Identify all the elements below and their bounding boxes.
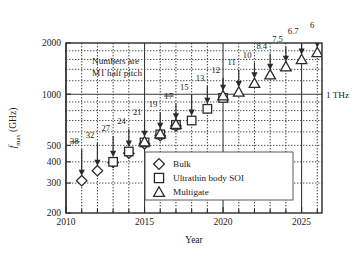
data-point-triangle	[233, 87, 244, 96]
xtick-label: 2020	[214, 217, 233, 227]
ytick-label: 500	[47, 141, 62, 151]
point-label: 11	[227, 57, 235, 67]
legend-item: Bulk	[154, 159, 192, 170]
xtick-label: 2010	[57, 217, 76, 227]
legend-marker-square	[154, 173, 163, 182]
point-label: 17	[164, 91, 173, 101]
point-label: 38	[70, 136, 79, 146]
legend-label: Bulk	[173, 159, 191, 169]
data-point-triangle	[249, 78, 260, 87]
point-label: 24	[117, 116, 126, 126]
callout-arrow-head	[189, 110, 195, 116]
y-axis-title: fmax (GHz)	[8, 108, 21, 149]
point-label: 32	[86, 130, 95, 140]
point-label: 8.4	[256, 41, 267, 51]
data-point-triangle	[265, 70, 276, 79]
data-point-square	[187, 116, 196, 125]
legend-label: Ultrathin body SOI	[173, 173, 244, 183]
annotation-note-line: M1 half pitch	[92, 68, 142, 78]
callout-arrow-head	[110, 151, 116, 157]
x-axis-title: Year	[185, 235, 203, 245]
ytick-label: 300	[47, 178, 62, 188]
data-point-triangle	[312, 47, 323, 56]
point-label: 21	[133, 107, 142, 117]
point-label: 6.7	[288, 26, 299, 36]
data-point-triangle	[281, 62, 292, 71]
point-label: 6	[310, 20, 315, 30]
point-label: 27	[102, 123, 111, 133]
data-point-diamond	[92, 165, 102, 175]
data-point-diamond	[77, 175, 87, 185]
chart-figure: 200300400500100020002010201520202025Year…	[0, 0, 357, 269]
annotation-note-line: Numbers are	[92, 56, 139, 66]
point-label: 13	[196, 73, 205, 83]
ytick-label: 1000	[42, 90, 61, 100]
point-label: 19	[149, 99, 158, 109]
ytick-label: 400	[47, 157, 62, 167]
xtick-label: 2025	[292, 217, 311, 227]
data-point-square	[109, 158, 118, 167]
ytick-label: 2000	[42, 38, 61, 48]
fmax-vs-year-scatter-chart: 200300400500100020002010201520202025Year…	[0, 0, 357, 269]
point-label: 15	[180, 82, 189, 92]
data-point-square	[125, 147, 134, 156]
legend-label: Multigate	[173, 187, 209, 197]
point-label: 7.5	[272, 34, 283, 44]
point-label: 10	[243, 50, 252, 60]
callout-arrow-head	[204, 98, 210, 104]
data-point-triangle	[296, 54, 307, 63]
point-label: 12	[211, 65, 220, 75]
reference-line-label: 1 THz	[326, 90, 349, 100]
xtick-label: 2015	[135, 217, 154, 227]
data-point-square	[203, 105, 212, 114]
